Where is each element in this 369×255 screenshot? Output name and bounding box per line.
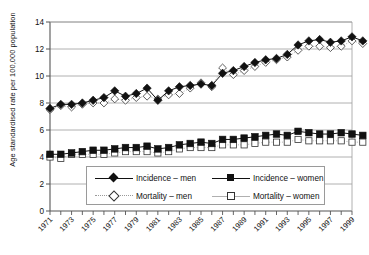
y-axis-tick-label: 8 [39, 99, 44, 108]
x-axis-tick-label: 1977 [101, 215, 119, 233]
y-axis-tick-label: 2 [39, 180, 44, 189]
x-axis-ticks: 1971197319751977197919811983198519871989… [36, 211, 356, 233]
x-axis-tick-label: 1997 [317, 215, 335, 233]
y-axis-tick-label: 0 [39, 207, 44, 216]
legend-item-mortality-men: Mortality – men [95, 187, 192, 205]
chart-plot-area: 0246810121419711973197519771979198119831… [0, 0, 369, 255]
legend-item-mortality-women: Mortality – women [212, 187, 319, 205]
chart-legend: Incidence – men Incidence – women Mortal… [86, 166, 325, 205]
y-axis-tick-label: 14 [35, 18, 45, 27]
x-axis-tick-label: 1979 [122, 215, 140, 233]
x-axis-tick-label: 1995 [295, 215, 313, 233]
legend-item-incidence-men: Incidence – men [95, 169, 196, 187]
x-axis-tick-label: 1985 [187, 215, 205, 233]
legend-item-incidence-women: Incidence – women [212, 169, 324, 187]
open-square-marker-icon [212, 190, 250, 202]
x-axis-tick-label: 1989 [230, 215, 248, 233]
x-axis-tick-label: 1993 [273, 215, 291, 233]
x-axis-tick-label: 1973 [58, 215, 76, 233]
open-diamond-marker-icon [95, 190, 133, 202]
legend-label-incidence-women: Incidence – women [250, 174, 324, 183]
x-axis-tick-label: 1999 [338, 215, 356, 233]
legend-label-mortality-women: Mortality – women [250, 192, 319, 201]
x-axis-tick-label: 1991 [252, 215, 270, 233]
x-axis-tick-label: 1971 [36, 215, 54, 233]
x-axis-tick-label: 1975 [79, 215, 97, 233]
legend-label-incidence-men: Incidence – men [133, 174, 196, 183]
y-axis-tick-label: 4 [39, 153, 44, 162]
x-axis-tick-label: 1987 [209, 215, 227, 233]
y-axis-tick-label: 12 [35, 45, 45, 54]
x-axis-tick-label: 1983 [166, 215, 184, 233]
y-axis-tick-label: 10 [35, 72, 45, 81]
filled-diamond-marker-icon [95, 172, 133, 184]
y-axis-tick-label: 6 [39, 126, 44, 135]
chart-container: Age standardised rate per 100,000 popula… [0, 0, 369, 255]
x-axis-tick-label: 1981 [144, 215, 162, 233]
y-axis-ticks: 02468101214 [35, 18, 50, 216]
legend-label-mortality-men: Mortality – men [133, 192, 192, 201]
filled-square-marker-icon [212, 172, 250, 184]
